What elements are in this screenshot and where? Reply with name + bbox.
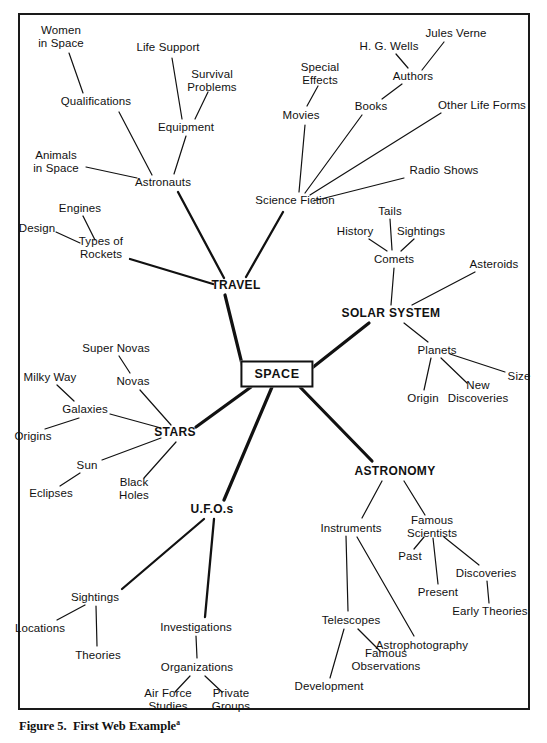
figure-caption: Figure 5. First Web Examplea [19,718,180,734]
node-new-discoveries: New Discoveries [448,379,509,405]
major-branch-stars: STARS [154,426,196,439]
node-special-effects: Special Effects [301,61,339,87]
center-node-space: SPACE [240,361,313,388]
node-astrophotography: Astrophotography [376,639,468,652]
node-planets: Planets [417,344,456,357]
node-novas: Novas [116,375,149,388]
node-design: Design [19,222,55,235]
figure-container: Women in SpaceQualificationsLife Support… [0,0,547,743]
node-size: Size [508,370,531,383]
node-equipment: Equipment [158,121,214,134]
node-telescopes: Telescopes [322,614,381,627]
major-branch-solar-system: SOLAR SYSTEM [342,307,441,320]
node-h-g-wells: H. G. Wells [359,40,418,53]
node-early-theories: Early Theories [452,605,527,618]
node-animals-in-space: Animals in Space [33,149,79,175]
node-qualifications: Qualifications [61,95,131,108]
figure-caption-footnote-marker: a [176,718,180,727]
node-black-holes: Black Holes [119,476,149,502]
node-private-groups: Private Groups [212,687,250,713]
node-discoveries: Discoveries [456,567,517,580]
figure-caption-text: Figure 5. First Web Example [19,719,176,733]
node-locations: Locations [15,622,65,635]
node-books: Books [355,100,387,113]
node-tails: Tails [378,205,402,218]
node-air-force-studies: Air Force Studies [144,687,192,713]
node-instruments: Instruments [320,522,381,535]
node-development: Development [295,680,364,693]
major-branch-travel: TRAVEL [211,279,260,292]
node-authors: Authors [393,70,433,83]
node-theories: Theories [75,649,121,662]
node-types-of-rockets: Types of Rockets [79,235,123,261]
node-galaxies: Galaxies [62,403,108,416]
node-eclipses: Eclipses [29,487,73,500]
node-other-life-forms: Other Life Forms [438,99,526,112]
node-science-fiction: Science Fiction [255,194,334,207]
node-comets: Comets [374,253,414,266]
node-astronauts: Astronauts [135,176,191,189]
node-women-in-space: Women in Space [38,24,84,50]
node-radio-shows: Radio Shows [410,164,479,177]
node-sightings: Sightings [71,591,119,604]
node-organizations: Organizations [161,661,233,674]
node-present: Present [418,586,458,599]
node-famous-scientists: Famous Scientists [407,514,457,540]
node-milky-way: Milky Way [24,371,77,384]
node-movies: Movies [282,109,319,122]
node-super-novas: Super Novas [82,342,150,355]
node-life-support: Life Support [136,41,199,54]
node-sun: Sun [77,459,98,472]
node-past: Past [398,550,421,563]
node-origins: Origins [14,430,51,443]
node-engines: Engines [59,202,101,215]
node-origin: Origin [407,392,438,405]
major-branch-astronomy: ASTRONOMY [354,465,435,478]
node-survival-problems: Survival Problems [187,68,236,94]
major-branch-u-f-o-s: U.F.O.s [190,503,233,516]
node-investigations: Investigations [160,621,232,634]
node-sightings: Sightings [397,225,445,238]
node-asteroids: Asteroids [470,258,519,271]
node-history: History [337,225,373,238]
node-jules-verne: Jules Verne [425,27,486,40]
